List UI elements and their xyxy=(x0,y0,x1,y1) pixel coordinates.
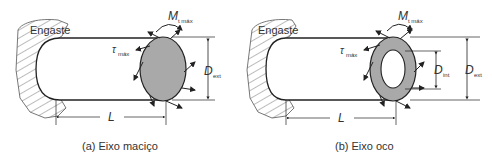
torque-subscript: t máx xyxy=(408,18,423,24)
caption-hollow-shaft: (b) Eixo oco xyxy=(335,140,394,152)
diameter-subscript: ext xyxy=(474,72,482,78)
stress-subscript: máx xyxy=(346,52,357,58)
support-label: Engaste xyxy=(258,24,298,36)
diameter-label: D xyxy=(465,63,474,77)
inner-diameter-subscript: int xyxy=(443,72,450,78)
diameter-label: D xyxy=(204,64,213,78)
diameter-subscript: ext xyxy=(213,73,221,79)
stress-subscript: máx xyxy=(118,51,129,57)
support-label: Engaste xyxy=(30,24,70,36)
torque-subscript: t máx xyxy=(178,18,193,24)
inner-diameter-label: D xyxy=(434,63,443,77)
torsion-shafts-diagram: Engaste M t máx τ máx D ext L Engaste M … xyxy=(0,0,492,166)
torque-label: M xyxy=(168,9,178,23)
length-label: L xyxy=(338,111,345,125)
hollow-core xyxy=(381,50,405,88)
caption-solid-shaft: (a) Eixo maciço xyxy=(82,140,158,152)
torque-label: M xyxy=(398,9,408,23)
length-label: L xyxy=(108,110,115,124)
